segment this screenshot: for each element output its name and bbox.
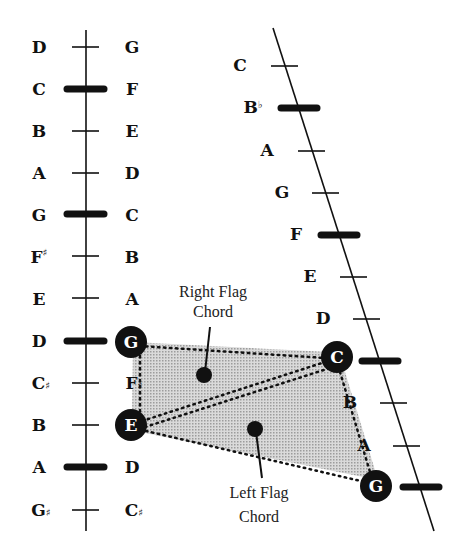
right-flag-caption-line1: Right Flag [179, 283, 247, 301]
outer-label: E [126, 121, 139, 141]
right-label: D [316, 308, 331, 328]
right-flag-caption-line2: Chord [193, 303, 233, 320]
outer-label: G [125, 37, 140, 57]
outer-label: C♯ [125, 500, 143, 520]
inner-label: D [32, 37, 47, 57]
outer-label: D [125, 457, 140, 477]
left-string: D C B A G F♯ E D C♯ B A G♯ G F E D C B A… [31, 30, 144, 531]
right-flag-dot [196, 367, 212, 383]
inner-label: G [32, 205, 47, 225]
right-label: A [356, 435, 371, 455]
outer-label: C [125, 205, 139, 225]
svg-text:C: C [330, 347, 344, 367]
outer-label: F [126, 79, 138, 99]
node-left-g: G [115, 326, 147, 358]
node-left-e: E [115, 409, 147, 441]
left-flag-dot [247, 421, 263, 437]
outer-label: D [125, 163, 140, 183]
inner-label: B [32, 121, 46, 141]
svg-text:G: G [369, 476, 384, 496]
node-right-g: G [360, 470, 392, 502]
right-label: F [290, 224, 302, 244]
right-label: E [304, 266, 317, 286]
inner-label: A [31, 163, 46, 183]
right-label: B [343, 392, 357, 412]
svg-text:E: E [125, 415, 138, 435]
inner-label: C♯ [32, 373, 50, 393]
inner-label: D [32, 331, 47, 351]
chord-diagram: D C B A G F♯ E D C♯ B A G♯ G F E D C B A… [0, 0, 466, 554]
right-label: A [259, 140, 274, 160]
right-label: G [275, 182, 290, 202]
inner-label: B [32, 415, 46, 435]
inner-label: A [31, 457, 46, 477]
node-right-c: C [321, 341, 353, 373]
inner-label: G♯ [31, 500, 50, 520]
right-label: B♭ [243, 97, 262, 117]
inner-label: E [33, 289, 46, 309]
right-label: C [233, 55, 247, 75]
outer-label: B [125, 247, 139, 267]
left-flag-caption-line1: Left Flag [229, 484, 288, 502]
left-flag-caption-line2: Chord [239, 508, 279, 525]
inner-label: C [32, 79, 46, 99]
outer-label: A [124, 289, 139, 309]
inner-label: F♯ [31, 247, 48, 267]
svg-text:G: G [124, 332, 139, 352]
